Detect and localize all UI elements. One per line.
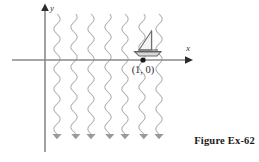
sailboat-sail xyxy=(139,31,152,50)
current-arrowhead xyxy=(71,134,80,139)
sailboat-icon xyxy=(135,31,162,56)
x-axis-label: x xyxy=(185,43,190,53)
current-wave-line xyxy=(156,14,162,134)
current-arrowheads-group xyxy=(52,134,163,139)
figure-container: x y (1, 0) Figure Ex-62 xyxy=(0,0,259,162)
current-wave-line xyxy=(88,14,94,134)
point-label: (1, 0) xyxy=(132,64,155,76)
y-axis: y xyxy=(41,3,54,152)
current-arrowhead xyxy=(154,134,163,139)
current-arrowhead xyxy=(105,134,114,139)
current-wave-line xyxy=(54,14,60,134)
current-wave-line xyxy=(105,14,111,134)
current-arrowhead xyxy=(120,134,129,139)
current-arrowhead xyxy=(86,134,95,139)
figure-caption: Figure Ex-62 xyxy=(194,135,255,146)
y-axis-label: y xyxy=(49,3,54,13)
current-arrowhead xyxy=(52,134,61,139)
current-arrowhead xyxy=(139,134,148,139)
point-dot xyxy=(140,57,145,62)
x-axis-arrowhead xyxy=(185,56,193,64)
current-wave-line xyxy=(122,14,128,134)
x-axis: x xyxy=(12,43,193,64)
y-axis-arrowhead xyxy=(41,4,49,12)
current-wave-line xyxy=(71,14,77,134)
